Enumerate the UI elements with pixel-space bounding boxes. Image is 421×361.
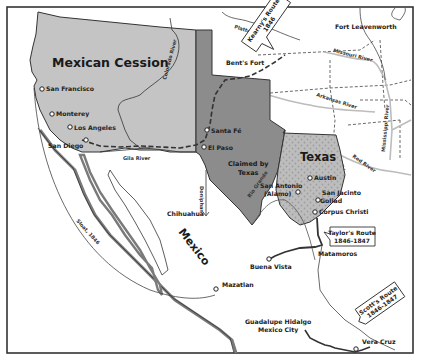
taylor-label-1: Taylor's Route — [328, 229, 376, 237]
region-label-claimed-line1: Claimed by — [228, 160, 269, 168]
city-label-corpus-christi: Corpus Christi — [319, 208, 368, 216]
city-label-san-antonio-2: (Alamo) — [264, 190, 292, 197]
region-label-texas: Texas — [300, 150, 336, 164]
city-label-matamoros: Matamoros — [318, 250, 357, 257]
region-label-claimed-line2: Texas — [238, 169, 259, 177]
city-label-san-jacinto: San Jacinto — [322, 189, 361, 197]
city-label-los-angeles: Los Angeles — [74, 124, 116, 132]
taylor-label-2: 1846-1847 — [334, 237, 370, 244]
city-label-goliad: Goliad — [320, 197, 342, 204]
city-label-el-paso: El Paso — [208, 144, 233, 151]
city-label-mexico-city: Mexico City — [258, 326, 298, 334]
city-label-san-francisco: San Francisco — [46, 85, 94, 92]
city-label-santa-fe: Santa Fé — [211, 127, 242, 134]
city-label-mazatlan: Mazatlan — [222, 281, 254, 288]
city-label-monterey: Monterey — [56, 110, 89, 118]
route-label-doniphan: Doniphan — [198, 186, 205, 213]
city-label-buena-vista: Buena Vista — [250, 263, 292, 270]
city-label-austin: Austin — [314, 174, 336, 181]
region-mexican-cession — [30, 12, 196, 152]
city-label-vera-cruz: Vera Cruz — [362, 338, 396, 345]
city-label-fort-leavenworth: Fort Leavenworth — [335, 23, 397, 30]
city-label-san-diego: San Diego — [48, 142, 83, 150]
historical-map: Mexican Cession Claimed by Texas Texas M… — [0, 0, 421, 361]
city-label-guadalupe-hidalgo: Guadalupe Hidalgo — [245, 318, 311, 326]
city-label-bents-fort: Bent's Fort — [226, 59, 264, 66]
city-label-san-antonio-1: San Antonio — [260, 182, 302, 189]
river-label-gila: Gila River — [123, 155, 151, 161]
callout-taylor: Taylor's Route 1846-1847 — [324, 227, 376, 246]
region-label-mexican-cession: Mexican Cession — [52, 55, 169, 70]
city-label-chihuahua: Chihuahua — [167, 210, 204, 217]
